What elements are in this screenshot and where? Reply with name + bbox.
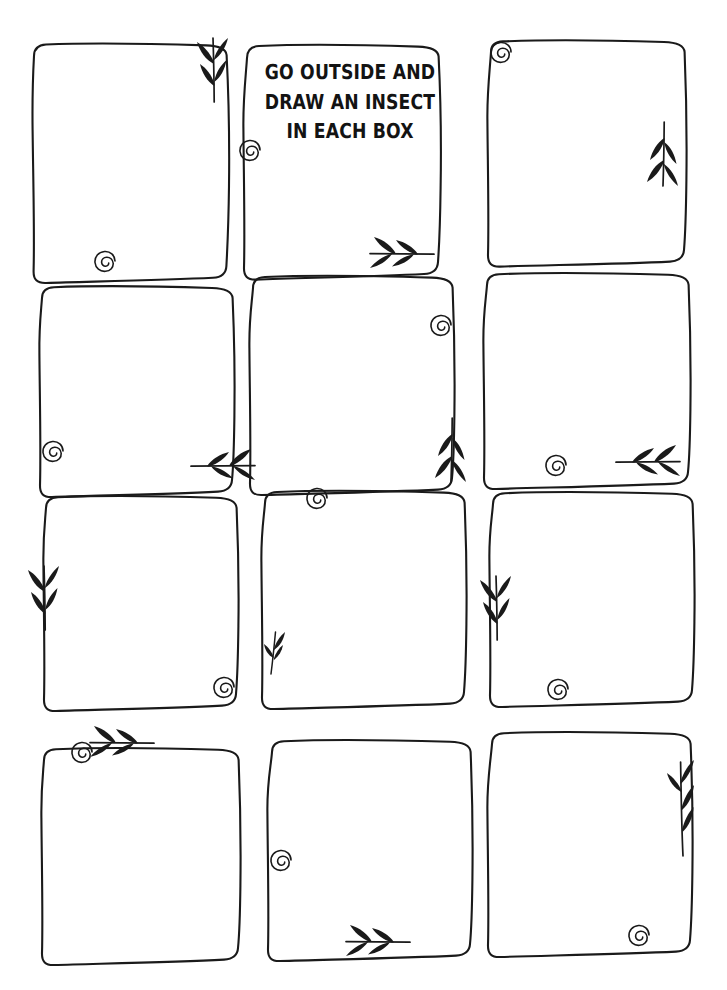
spiral-curl-icon	[214, 677, 234, 697]
leaf-arrow-right-icon	[370, 237, 434, 268]
spiral-curl-icon	[95, 251, 115, 271]
spiral-curl-icon	[548, 679, 568, 699]
drawing-box-1[interactable]	[32, 38, 229, 283]
spiral-curl-icon	[43, 441, 63, 461]
spiral-curl-icon	[546, 455, 566, 475]
leaf-arrow-right-icon	[90, 726, 154, 757]
spiral-curl-icon	[72, 742, 92, 762]
worksheet-canvas	[0, 0, 727, 990]
leaf-sprig-small-icon	[264, 632, 285, 674]
drawing-box-2[interactable]	[240, 45, 441, 280]
drawing-box-4[interactable]	[39, 286, 255, 497]
drawing-box-11[interactable]	[267, 740, 472, 961]
spiral-curl-icon	[629, 925, 649, 945]
drawing-box-12[interactable]	[487, 732, 694, 957]
leaf-arrow-up-icon	[435, 418, 466, 482]
leaf-arrow-left-icon	[616, 445, 680, 476]
leaf-arrow-down-icon	[197, 38, 228, 102]
leaf-sprig-up-icon	[667, 760, 694, 856]
drawing-box-9[interactable]	[480, 492, 695, 707]
spiral-curl-icon	[271, 850, 291, 870]
drawing-box-3[interactable]	[487, 40, 686, 266]
drawing-box-10[interactable]	[41, 726, 240, 965]
drawing-box-7[interactable]	[28, 496, 239, 711]
drawing-box-5[interactable]	[249, 276, 466, 495]
leaf-arrow-right-icon	[346, 925, 410, 956]
leaf-arrow-left-icon	[191, 449, 255, 480]
leaf-arrow-up-icon	[647, 122, 678, 186]
spiral-curl-icon	[431, 315, 451, 335]
leaf-arrow-down-icon	[480, 576, 511, 640]
drawing-box-8[interactable]	[261, 488, 466, 709]
drawing-box-6[interactable]	[483, 273, 690, 489]
worksheet-page: GO OUTSIDE AND DRAW AN INSECT IN EACH BO…	[0, 0, 727, 990]
spiral-curl-icon	[491, 42, 511, 62]
